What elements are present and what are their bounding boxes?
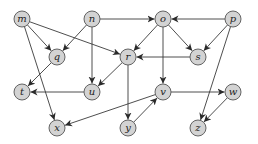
node-r: r: [120, 49, 136, 65]
node-label: s: [195, 51, 200, 62]
edge-y-to-v: [134, 98, 157, 122]
edge-q-to-t: [28, 63, 51, 86]
node-z: z: [190, 120, 206, 136]
node-p: p: [225, 11, 241, 27]
node-label: q: [54, 51, 60, 62]
node-v: v: [155, 84, 171, 100]
edge-w-to-z: [204, 98, 227, 122]
edge-r-to-u: [98, 63, 122, 86]
edge-m-to-x: [24, 27, 54, 120]
node-t: t: [14, 84, 30, 100]
node-label: y: [124, 122, 131, 133]
node-x: x: [49, 120, 65, 136]
node-w: w: [225, 84, 241, 100]
node-label: z: [194, 122, 201, 133]
node-o: o: [155, 11, 171, 27]
node-label: o: [160, 13, 166, 24]
node-label: x: [54, 122, 60, 133]
edge-o-to-r: [134, 25, 158, 51]
edge-v-to-x: [65, 95, 155, 126]
node-m: m: [14, 11, 30, 27]
edge-p-to-z: [201, 27, 231, 120]
node-label: w: [229, 86, 238, 97]
node-label: n: [89, 13, 95, 24]
node-label: m: [17, 13, 26, 24]
node-s: s: [190, 49, 206, 65]
directed-graph: mnopqrstuvwxyz: [0, 0, 258, 144]
node-y: y: [120, 120, 136, 136]
node-label: u: [89, 86, 95, 97]
edge-o-to-s: [168, 25, 192, 51]
node-n: n: [84, 11, 100, 27]
edges-layer: [24, 19, 230, 125]
edge-n-to-q: [63, 25, 87, 51]
node-q: q: [49, 49, 65, 65]
node-u: u: [84, 84, 100, 100]
nodes-layer: mnopqrstuvwxyz: [14, 11, 241, 136]
node-label: p: [230, 13, 237, 24]
node-label: v: [160, 86, 166, 97]
